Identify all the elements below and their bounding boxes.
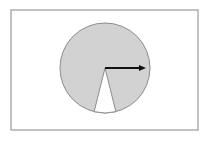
geometric-figure: Circle with removed sector and radius ar… [0,0,210,142]
